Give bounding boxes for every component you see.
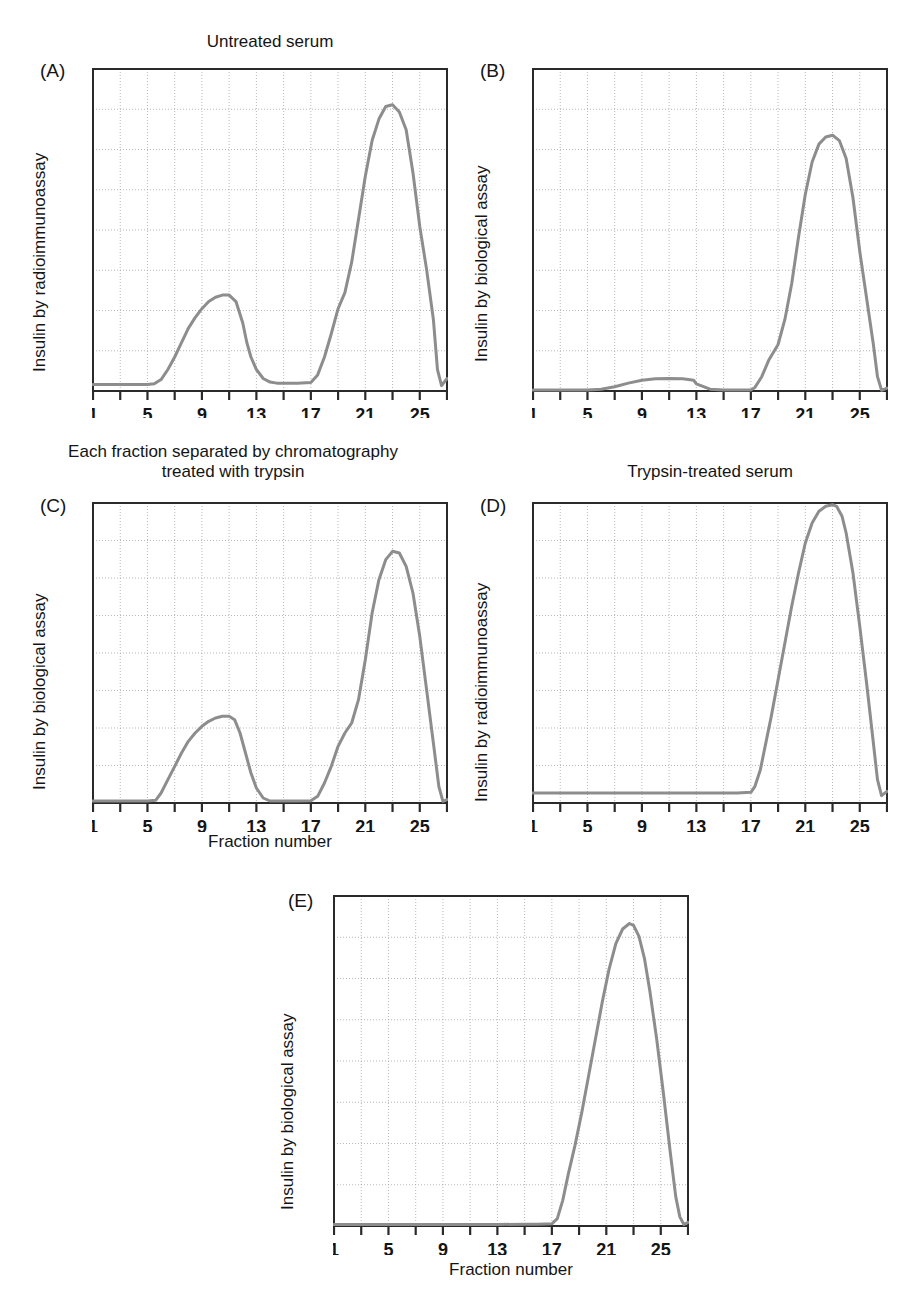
- panel-b-gridlines: [533, 69, 887, 391]
- panel-c-letter: (C): [40, 495, 66, 517]
- svg-text:1: 1: [532, 817, 538, 832]
- panel-c-y-axis-label: Insulin by biological assay: [30, 593, 50, 790]
- panel-a-gridlines: [93, 69, 447, 391]
- svg-text:5: 5: [383, 1240, 393, 1255]
- svg-text:5: 5: [582, 405, 592, 418]
- panel-c-x-axis-label: Fraction number: [92, 832, 448, 852]
- svg-text:25: 25: [850, 405, 870, 418]
- panel-c-ticks: [92, 541, 447, 813]
- svg-text:21: 21: [795, 405, 815, 418]
- panel-a-ticks: [92, 109, 447, 400]
- panel-c-tick-labels: 15913172125: [92, 817, 430, 832]
- svg-text:9: 9: [637, 405, 647, 418]
- panel-e-plot: 15913172125: [333, 895, 689, 1255]
- panel-a-y-axis-label: Insulin by radioimmunoassay: [30, 153, 50, 372]
- svg-text:17: 17: [301, 817, 321, 832]
- panel-e-gridlines: [334, 896, 688, 1226]
- panel-c-svg: 15913172125: [92, 502, 448, 832]
- panel-b-y-axis-label: Insulin by biological assay: [472, 165, 492, 362]
- panel-e: (E) Insulin by biological assay Fraction…: [230, 870, 730, 1306]
- panel-b-ticks: [532, 109, 887, 400]
- panel-d-title: Trypsin-treated serum: [532, 462, 888, 482]
- panel-e-tick-labels: 15913172125: [333, 1240, 671, 1255]
- svg-text:17: 17: [301, 405, 321, 418]
- panel-b-plot: 15913172125: [532, 68, 888, 418]
- panel-e-letter: (E): [288, 890, 313, 912]
- svg-text:13: 13: [246, 817, 266, 832]
- panel-e-ticks: [333, 937, 688, 1235]
- svg-text:9: 9: [197, 405, 207, 418]
- svg-text:9: 9: [197, 817, 207, 832]
- panel-b-svg: 15913172125: [532, 68, 888, 418]
- svg-text:25: 25: [850, 817, 870, 832]
- panel-a: Untreated serum (A) Insulin by radioimmu…: [0, 0, 460, 420]
- panel-b-curve: [533, 135, 887, 390]
- svg-text:5: 5: [142, 817, 152, 832]
- panel-d-y-axis-label: Insulin by radioimmunoassay: [472, 583, 492, 802]
- panel-d-gridlines: [533, 503, 887, 803]
- svg-text:9: 9: [438, 1240, 448, 1255]
- panel-b: (B) Insulin by biological assay 15913172…: [460, 0, 920, 420]
- panel-c-plot: 15913172125: [92, 502, 448, 832]
- svg-text:25: 25: [410, 817, 430, 832]
- panel-d-tick-labels: 15913172125: [532, 817, 870, 832]
- panel-d-curve: [533, 505, 887, 796]
- svg-text:17: 17: [542, 1240, 562, 1255]
- svg-text:21: 21: [355, 405, 375, 418]
- panel-a-letter: (A): [40, 60, 65, 82]
- panel-c-curve: [93, 551, 447, 801]
- svg-text:9: 9: [637, 817, 647, 832]
- svg-text:5: 5: [582, 817, 592, 832]
- panel-a-title: Untreated serum: [92, 32, 448, 52]
- panel-d-ticks: [532, 541, 887, 813]
- svg-text:1: 1: [532, 405, 538, 418]
- panel-d-svg: 15913172125: [532, 502, 888, 832]
- svg-text:1: 1: [92, 817, 98, 832]
- svg-text:17: 17: [741, 817, 761, 832]
- svg-text:25: 25: [410, 405, 430, 418]
- panel-c-title: Each fraction separated by chromatograph…: [18, 442, 448, 481]
- svg-text:13: 13: [246, 405, 266, 418]
- panel-e-x-axis-label: Fraction number: [333, 1260, 689, 1280]
- svg-text:21: 21: [355, 817, 375, 832]
- panel-b-letter: (B): [480, 60, 505, 82]
- panel-a-tick-labels: 15913172125: [92, 405, 430, 418]
- panel-e-curve: [334, 924, 688, 1225]
- svg-text:21: 21: [795, 817, 815, 832]
- svg-text:25: 25: [651, 1240, 671, 1255]
- svg-text:17: 17: [741, 405, 761, 418]
- svg-text:5: 5: [142, 405, 152, 418]
- svg-text:13: 13: [686, 405, 706, 418]
- svg-text:21: 21: [596, 1240, 616, 1255]
- panel-b-tick-labels: 15913172125: [532, 405, 870, 418]
- panel-d-letter: (D): [480, 495, 506, 517]
- panel-e-svg: 15913172125: [333, 895, 689, 1255]
- panel-a-svg: 15913172125: [92, 68, 448, 418]
- panel-a-curve: [93, 105, 447, 386]
- panel-a-plot: 15913172125: [92, 68, 448, 418]
- svg-text:1: 1: [92, 405, 98, 418]
- svg-text:1: 1: [333, 1240, 339, 1255]
- panel-d-plot: 15913172125: [532, 502, 888, 832]
- panel-c: Each fraction separated by chromatograph…: [0, 420, 460, 870]
- svg-text:13: 13: [686, 817, 706, 832]
- panel-c-gridlines: [93, 503, 447, 803]
- panel-e-y-axis-label: Insulin by biological assay: [278, 1013, 298, 1210]
- svg-text:13: 13: [487, 1240, 507, 1255]
- panel-d: Trypsin-treated serum (D) Insulin by rad…: [460, 420, 920, 870]
